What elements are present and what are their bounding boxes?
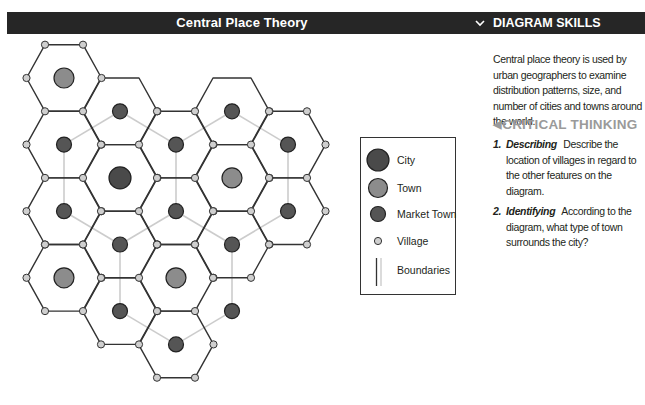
village-point [79,174,86,181]
legend-label-market-town: Market Town [397,208,456,220]
village-point [41,308,48,315]
question-list: 1. Describing Describe the location of v… [493,137,643,256]
village-point [97,141,104,148]
village-point [41,174,48,181]
village-point [79,108,86,115]
village-point [98,74,105,81]
village-point [135,141,142,148]
village-point [322,208,329,215]
market-town-point [281,137,296,152]
town-legend-icon [369,179,388,198]
village-point [191,174,198,181]
village-point [191,308,198,315]
village-point [135,208,142,215]
village-point [191,108,198,115]
village-point [153,241,160,248]
village-point [97,341,104,348]
village-point [209,141,216,148]
village-point [322,141,329,148]
village-point [247,274,254,281]
village-point [41,108,48,115]
center-points [54,68,296,352]
market-town-legend-icon [371,207,386,222]
question-item: 2. Identifying According to the diagram,… [493,204,643,251]
village-point [209,274,216,281]
village-point [191,374,198,381]
village-point [247,141,254,148]
village-point [23,74,30,81]
central-place-diagram: City Town Market Town Village Boundaries [0,0,470,405]
village-point [23,274,30,281]
market-town-point [169,337,184,352]
village-point [153,174,160,181]
legend: City Town Market Town Village Boundaries [361,138,457,295]
question-number: 1. [493,137,501,153]
market-town-point [169,204,184,219]
town-point [54,268,74,288]
village-point [303,241,310,248]
question-skill: Identifying [506,205,555,217]
diagram-skills-toggle[interactable]: DIAGRAM SKILLS [475,12,601,34]
legend-label-boundaries: Boundaries [397,264,450,276]
village-point [265,108,272,115]
market-town-point [225,304,240,319]
legend-label-city: City [397,154,416,166]
village-point [265,174,272,181]
question-number: 2. [493,204,501,220]
village-point [97,208,104,215]
legend-label-village: Village [397,235,428,247]
city-point [109,167,131,189]
market-town-point [169,137,184,152]
triangle-left-icon: ◀ [493,118,501,131]
critical-thinking-heading: ◀ CRITICAL THINKING [493,117,637,132]
town-point [54,68,74,88]
village-point [97,274,104,281]
question-item: 1. Describing Describe the location of v… [493,137,643,199]
village-point [79,308,86,315]
village-legend-icon [374,237,381,244]
market-town-point [281,204,296,219]
village-point [79,241,86,248]
village-point [153,308,160,315]
village-point [153,374,160,381]
village-point [23,141,30,148]
village-point [23,208,30,215]
question-skill: Describing [506,138,557,150]
village-point [247,208,254,215]
market-town-point [113,104,128,119]
village-point [191,241,198,248]
diagram-skills-title: DIAGRAM SKILLS [493,12,601,34]
market-town-point [113,237,128,252]
village-point [303,174,310,181]
market-town-point [57,204,72,219]
critical-thinking-label: CRITICAL THINKING [502,117,637,132]
market-town-point [113,304,128,319]
town-point [166,268,186,288]
chevron-down-icon [475,12,487,34]
legend-label-town: Town [397,182,422,194]
city-legend-icon [367,149,389,171]
village-point [153,108,160,115]
village-point [210,341,217,348]
market-town-point [225,237,240,252]
village-point [135,274,142,281]
market-town-point [225,104,240,119]
village-point [303,108,310,115]
town-point [222,168,242,188]
village-point [41,41,48,48]
village-point [135,341,142,348]
market-town-point [57,137,72,152]
village-point [265,241,272,248]
village-point [41,241,48,248]
village-point [209,208,216,215]
village-point [79,41,86,48]
